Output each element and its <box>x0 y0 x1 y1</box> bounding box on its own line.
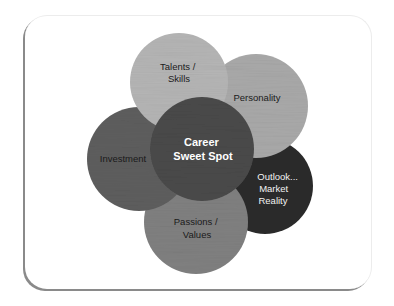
label-talents-line-2: Skills <box>168 73 190 84</box>
career-sweet-spot-diagram: Talents / Skills Personality Outlook... … <box>0 0 394 306</box>
label-center-line-2: Sweet Spot <box>173 150 233 162</box>
circle-career-sweet-spot <box>150 97 254 201</box>
label-talents-line-1: Talents / <box>160 61 196 72</box>
label-investment-line-1: Investment <box>100 153 147 164</box>
label-personality-line-1: Personality <box>234 92 281 103</box>
label-center-line-1: Career <box>184 136 220 148</box>
label-outlook-line-2: Market <box>259 183 288 194</box>
label-passions-line-1: Passions / <box>174 216 218 227</box>
label-personality: Personality <box>234 92 281 103</box>
label-outlook-line-3: Reality <box>258 195 287 206</box>
label-investment: Investment <box>100 153 147 164</box>
label-outlook-line-1: Outlook... <box>257 171 298 182</box>
label-passions-line-2: Values <box>183 229 212 240</box>
